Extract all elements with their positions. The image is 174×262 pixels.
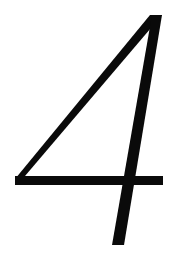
horizontal-bar (15, 176, 163, 185)
digit-canvas: 4 (0, 0, 174, 262)
vertical-stroke (112, 15, 162, 245)
digit-four-glyph (0, 0, 174, 262)
